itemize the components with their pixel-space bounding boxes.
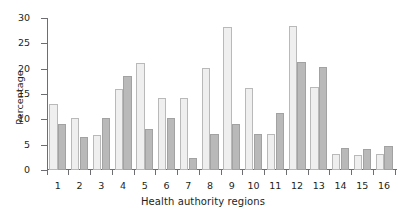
y-axis-tick-label: 0 (0, 165, 30, 175)
bar (71, 118, 79, 170)
bar (158, 98, 166, 170)
x-axis-tick (68, 170, 69, 175)
bar-group: 3 (91, 18, 113, 170)
bar (167, 118, 175, 170)
y-axis-tick-label: 30 (0, 13, 30, 23)
bar-group: 15 (352, 18, 374, 170)
bar-group: 10 (243, 18, 265, 170)
bar (319, 67, 327, 170)
x-axis-tick (373, 170, 374, 175)
bar (210, 134, 218, 170)
y-axis-tick (41, 119, 47, 120)
bar (254, 134, 262, 170)
y-axis-tick (41, 43, 47, 44)
bar (289, 26, 297, 170)
bar (80, 137, 88, 170)
x-axis-tick (242, 170, 243, 175)
bar (115, 89, 123, 170)
bar (136, 63, 144, 170)
y-axis-tick (41, 69, 47, 70)
bar (384, 146, 392, 170)
bar (145, 129, 153, 170)
bar (267, 134, 275, 170)
bar (310, 87, 318, 170)
bar (102, 118, 110, 170)
x-axis-tick (177, 170, 178, 175)
bar (341, 148, 349, 170)
bar-group: 1 (47, 18, 69, 170)
bar-group: 4 (112, 18, 134, 170)
bar (376, 154, 384, 170)
bar (354, 155, 362, 170)
bar (180, 98, 188, 170)
bar (123, 76, 131, 170)
x-axis-title: Health authority regions (0, 196, 406, 207)
bar (332, 154, 340, 170)
bar-group: 13 (308, 18, 330, 170)
bar-group: 5 (134, 18, 156, 170)
bar-group: 6 (156, 18, 178, 170)
bar-group: 11 (265, 18, 287, 170)
y-axis-tick (41, 94, 47, 95)
y-axis-tick-label: 25 (0, 39, 30, 49)
x-axis-tick (351, 170, 352, 175)
x-axis-tick (155, 170, 156, 175)
x-axis-tick-label: 16 (369, 181, 399, 191)
x-axis-tick (221, 170, 222, 175)
x-axis-tick (395, 170, 396, 175)
y-axis-tick (41, 170, 47, 171)
bars-layer: 12345678910111213141516 (47, 18, 395, 170)
bar (363, 149, 371, 170)
x-axis-tick (199, 170, 200, 175)
y-axis-tick-label: 10 (0, 115, 30, 125)
bar (58, 124, 66, 170)
bar (297, 62, 305, 170)
bar-group: 12 (286, 18, 308, 170)
y-axis-tick-label: 5 (0, 140, 30, 150)
x-axis-tick (47, 170, 48, 175)
bar (276, 113, 284, 170)
x-axis-tick (329, 170, 330, 175)
x-axis-tick (308, 170, 309, 175)
x-axis-tick (112, 170, 113, 175)
bar-group: 7 (178, 18, 200, 170)
bar (93, 135, 101, 170)
bar (245, 88, 253, 170)
y-axis-tick-label: 15 (0, 89, 30, 99)
x-axis-tick (264, 170, 265, 175)
bar (202, 68, 210, 170)
bar-group: 14 (330, 18, 352, 170)
bar-chart: Percentage 12345678910111213141516 05101… (0, 0, 406, 224)
bar-group: 2 (69, 18, 91, 170)
bar-group: 8 (199, 18, 221, 170)
plot-area: 12345678910111213141516 051015202530 (47, 18, 395, 170)
x-axis-tick (90, 170, 91, 175)
y-axis-tick-label: 20 (0, 64, 30, 74)
y-axis-tick (41, 145, 47, 146)
x-axis-tick (134, 170, 135, 175)
bar (232, 124, 240, 170)
bar (223, 27, 231, 170)
x-axis-tick (286, 170, 287, 175)
bar-group: 9 (221, 18, 243, 170)
bar-group: 16 (373, 18, 395, 170)
bar (49, 104, 57, 170)
y-axis-tick (41, 18, 47, 19)
bar (189, 158, 197, 170)
